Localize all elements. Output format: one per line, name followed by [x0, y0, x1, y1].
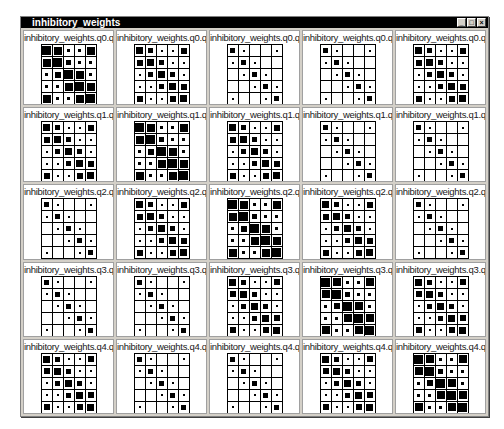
weight-cell	[414, 402, 425, 414]
weight-cell	[458, 134, 469, 146]
close-icon[interactable]: ×	[477, 18, 486, 27]
weight-cell	[135, 301, 146, 313]
weight-cell	[239, 354, 250, 366]
weight-square	[322, 290, 330, 298]
weight-square	[137, 280, 142, 285]
weight-square	[181, 238, 187, 244]
weight-square	[265, 281, 267, 283]
weight-square	[90, 281, 92, 283]
weight-square	[251, 303, 258, 310]
weight-cell	[53, 390, 64, 402]
weight-cell	[261, 211, 272, 223]
weight-cell	[75, 93, 86, 105]
hinton-diagram	[41, 44, 97, 105]
weight-cell	[42, 134, 53, 146]
weight-square	[459, 355, 467, 363]
weight-cell	[53, 402, 64, 414]
weight-cell	[332, 122, 343, 134]
weight-square	[183, 74, 185, 76]
weight-square	[150, 281, 152, 283]
weight-cell	[250, 301, 261, 313]
weight-square	[66, 393, 71, 398]
weight-square	[427, 72, 432, 77]
weight-square	[451, 62, 453, 64]
weight-square	[172, 329, 174, 331]
weight-square	[57, 394, 59, 396]
weight-cell	[261, 57, 272, 69]
weight-cell	[447, 57, 458, 69]
weight-cell	[414, 69, 425, 81]
weight-cell	[53, 146, 64, 158]
weight-square	[158, 225, 165, 232]
weight-cell	[261, 378, 272, 390]
weight-square	[229, 279, 236, 286]
minimize-icon[interactable]: _	[457, 18, 466, 27]
weight-square	[273, 172, 280, 179]
weight-square	[88, 125, 94, 131]
weight-cell	[414, 93, 425, 105]
weight-cell	[42, 199, 53, 211]
weight-cell	[436, 402, 447, 414]
weight-cell	[425, 313, 436, 325]
weight-square	[241, 60, 246, 65]
weight-cell	[272, 122, 283, 134]
weight-cell	[146, 289, 157, 301]
weight-cell	[179, 378, 190, 390]
weight-cell	[135, 235, 146, 247]
weight-cell	[354, 158, 365, 170]
weight-cell	[42, 122, 53, 134]
weight-square	[66, 304, 71, 309]
title-bar[interactable]: inhibitory_weights _ □ ×	[21, 17, 488, 28]
weight-cell	[425, 170, 436, 182]
weight-square	[77, 238, 82, 243]
panel-label: inhibitory_weights.q3.q34	[396, 264, 485, 275]
hinton-diagram	[413, 44, 469, 105]
weight-square	[265, 127, 267, 129]
weight-cell	[157, 93, 168, 105]
weight-square	[274, 279, 280, 285]
weight-cell	[86, 277, 97, 289]
weight-cell	[86, 354, 97, 366]
weight-cell	[250, 170, 261, 182]
weight-cell	[228, 301, 239, 313]
weight-square	[335, 329, 338, 332]
panel-label: inhibitory_weights.q0.q01	[117, 32, 206, 43]
weight-cell	[86, 146, 97, 158]
weight-cell	[354, 223, 365, 235]
weight-square	[148, 72, 153, 77]
weight-square	[158, 71, 165, 78]
weight-cell	[146, 158, 157, 170]
weight-square	[88, 250, 93, 255]
weight-cell	[168, 211, 179, 223]
weight-cell	[135, 93, 146, 105]
weight-cell	[228, 289, 239, 301]
maximize-icon[interactable]: □	[467, 18, 476, 27]
weight-cell	[436, 289, 447, 301]
weight-cell	[365, 211, 376, 223]
weight-cell	[228, 378, 239, 390]
weight-square	[77, 316, 82, 321]
hinton-diagram	[41, 198, 97, 259]
weight-square	[366, 278, 374, 286]
weight-square	[418, 252, 420, 254]
weight-cell	[414, 390, 425, 402]
weight-square	[369, 228, 371, 230]
weight-square	[160, 126, 163, 129]
weight-square	[263, 393, 268, 398]
weight-cell	[239, 122, 250, 134]
weight-cell	[343, 390, 354, 402]
weight-cell	[86, 45, 97, 57]
weight-cell	[64, 325, 75, 337]
hinton-diagram	[227, 353, 283, 414]
weight-square	[55, 357, 60, 362]
weight-cell	[436, 313, 447, 325]
weight-square	[429, 127, 431, 129]
weight-square	[367, 238, 373, 244]
weight-square	[254, 281, 256, 283]
weight-cell	[42, 247, 53, 259]
weight-cell	[179, 170, 190, 182]
weight-cell	[458, 69, 469, 81]
weight-cell	[64, 45, 75, 57]
weight-cell	[64, 289, 75, 301]
weight-cell	[321, 45, 332, 57]
